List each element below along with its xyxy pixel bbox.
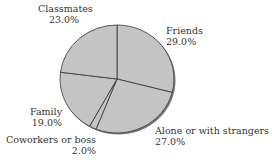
label-value: 23.0% (38, 14, 90, 25)
label-family: Family 19.0% (14, 106, 62, 128)
label-text: Family (14, 106, 62, 117)
label-value: 27.0% (155, 136, 269, 147)
label-alone: Alone or with strangers 27.0% (155, 125, 269, 147)
label-value: 29.0% (166, 36, 203, 47)
label-text: Friends (166, 25, 203, 36)
label-text: Classmates (38, 3, 90, 14)
label-text: Coworkers or boss (4, 134, 96, 145)
label-text: Alone or with strangers (155, 125, 269, 136)
label-coworkers: Coworkers or boss 2.0% (4, 134, 96, 156)
pie-slice-classmates (60, 25, 117, 79)
label-friends: Friends 29.0% (166, 25, 203, 47)
label-value: 2.0% (4, 145, 96, 156)
label-classmates: Classmates 23.0% (38, 3, 90, 25)
label-value: 19.0% (14, 117, 62, 128)
